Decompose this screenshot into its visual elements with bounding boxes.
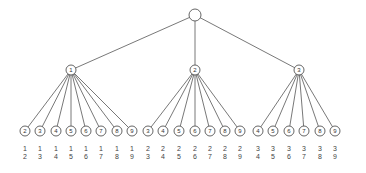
edge-1-7 xyxy=(71,70,101,131)
pair-bottom: 7 xyxy=(302,153,306,160)
pair-bottom: 9 xyxy=(238,153,242,160)
edge-3-5 xyxy=(273,70,299,131)
edge-root-1 xyxy=(71,15,195,70)
pair-top: 1 xyxy=(23,145,27,152)
tree-nodes: 123234567893456789456789 xyxy=(20,9,340,136)
pair-top: 1 xyxy=(69,145,73,152)
pair-bottom: 9 xyxy=(130,153,134,160)
pair-bottom: 5 xyxy=(177,153,181,160)
pair-bottom: 4 xyxy=(161,153,165,160)
pair-bottom: 2 xyxy=(23,153,27,160)
pair-top: 1 xyxy=(54,145,58,152)
pair-top: 3 xyxy=(271,145,275,152)
edge-2-8 xyxy=(195,70,225,131)
edge-1-6 xyxy=(71,70,86,131)
leaf-node: 9 xyxy=(330,126,340,136)
pair-top: 2 xyxy=(193,145,197,152)
edge-3-7 xyxy=(299,70,304,131)
edge-1-2 xyxy=(25,70,71,131)
edge-1-3 xyxy=(40,70,71,131)
leaf-node: 9 xyxy=(127,126,137,136)
leaf-node: 5 xyxy=(268,126,278,136)
pair-bottom: 6 xyxy=(84,153,88,160)
edge-2-3 xyxy=(148,70,195,131)
leaf-node: 6 xyxy=(284,126,294,136)
edge-3-4 xyxy=(258,70,299,131)
leaf-node: 2 xyxy=(20,126,30,136)
pair-top: 3 xyxy=(318,145,322,152)
pair-top: 2 xyxy=(161,145,165,152)
pair-bottom: 6 xyxy=(287,153,291,160)
leaf-node: 3 xyxy=(35,126,45,136)
pair-top: 3 xyxy=(302,145,306,152)
pair-top: 2 xyxy=(238,145,242,152)
pair-bottom: 6 xyxy=(193,153,197,160)
pair-top: 3 xyxy=(333,145,337,152)
edge-2-5 xyxy=(179,70,195,131)
pair-bottom: 5 xyxy=(69,153,73,160)
pair-bottom: 3 xyxy=(38,153,42,160)
pair-bottom: 8 xyxy=(223,153,227,160)
pair-bottom: 8 xyxy=(318,153,322,160)
pair-bottom: 3 xyxy=(146,153,150,160)
pair-bottom: 5 xyxy=(271,153,275,160)
leaf-node: 4 xyxy=(253,126,263,136)
edge-2-9 xyxy=(195,70,240,131)
pair-bottom: 9 xyxy=(333,153,337,160)
pair-bottom: 4 xyxy=(54,153,58,160)
leaf-node: 9 xyxy=(235,126,245,136)
edge-2-4 xyxy=(163,70,195,131)
leaf-node: 7 xyxy=(96,126,106,136)
pair-top: 1 xyxy=(115,145,119,152)
level1-node-2: 2 xyxy=(190,65,200,75)
leaf-node: 4 xyxy=(158,126,168,136)
leaf-node: 6 xyxy=(190,126,200,136)
leaf-node: 7 xyxy=(299,126,309,136)
pair-top: 3 xyxy=(256,145,260,152)
pair-top: 2 xyxy=(208,145,212,152)
level1-node-3: 3 xyxy=(294,65,304,75)
leaf-node: 5 xyxy=(174,126,184,136)
edge-1-9 xyxy=(71,70,132,131)
leaf-node: 6 xyxy=(81,126,91,136)
pair-top: 1 xyxy=(84,145,88,152)
pair-top: 1 xyxy=(99,145,103,152)
pair-bottom: 8 xyxy=(115,153,119,160)
level1-node-1: 1 xyxy=(66,65,76,75)
leaf-node: 7 xyxy=(205,126,215,136)
root-node xyxy=(189,9,201,21)
pair-top: 2 xyxy=(146,145,150,152)
pair-top: 2 xyxy=(223,145,227,152)
pair-top: 1 xyxy=(130,145,134,152)
edge-1-4 xyxy=(56,70,71,131)
leaf-node: 4 xyxy=(51,126,61,136)
leaf-node: 5 xyxy=(66,126,76,136)
leaf-node: 8 xyxy=(112,126,122,136)
edge-2-7 xyxy=(195,70,210,131)
pair-bottom: 4 xyxy=(256,153,260,160)
leaf-node: 3 xyxy=(143,126,153,136)
pair-bottom: 7 xyxy=(99,153,103,160)
pair-bottom: 7 xyxy=(208,153,212,160)
leaf-pair-labels: 1213141516171819232425262728293435363738… xyxy=(23,145,337,160)
leaf-node: 8 xyxy=(315,126,325,136)
tree-diagram: 123234567893456789456789 121314151617181… xyxy=(0,0,366,173)
leaf-node: 8 xyxy=(220,126,230,136)
edge-1-8 xyxy=(71,70,117,131)
edge-root-3 xyxy=(195,15,299,70)
pair-top: 2 xyxy=(177,145,181,152)
pair-top: 3 xyxy=(287,145,291,152)
pair-top: 1 xyxy=(38,145,42,152)
edge-3-6 xyxy=(289,70,299,131)
